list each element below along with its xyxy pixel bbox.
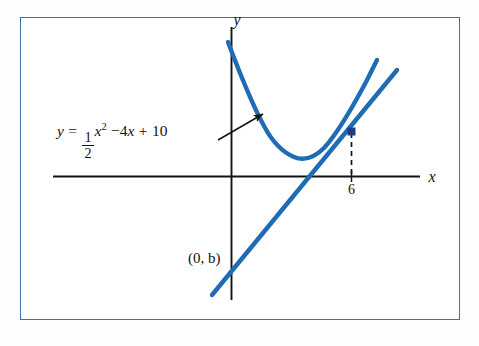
parabola-curve [228, 42, 377, 159]
equation-fraction: 12 [82, 130, 93, 160]
equation-constant: 10 [152, 122, 168, 139]
x-axis-label: x [427, 168, 435, 185]
x-tick-label-6: 6 [348, 182, 355, 197]
equation-exponent: 2 [101, 121, 106, 132]
y-intercept-label: (0, b) [188, 250, 221, 267]
tangent-line [212, 70, 397, 295]
figure-root: x y 6 (0, b) y = 12x2 −4x + 10 [0, 0, 479, 346]
tangency-point-marker [348, 128, 356, 136]
equation-lhs: y [57, 122, 64, 139]
fraction-numerator: 1 [82, 130, 93, 145]
equation-minus-term: −4 [111, 122, 128, 139]
plot-canvas: x y 6 (0, b) [0, 0, 479, 346]
fraction-denominator: 2 [82, 145, 93, 161]
equation-label: y = 12x2 −4x + 10 [57, 122, 167, 160]
equation-plus: + [139, 122, 148, 139]
y-axis-label: y [231, 11, 241, 29]
callout-arrow [218, 114, 263, 140]
equation-equals: = [68, 122, 77, 139]
